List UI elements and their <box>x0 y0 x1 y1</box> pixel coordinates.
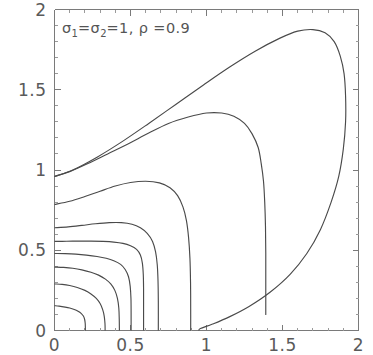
equals-2: = <box>107 20 120 36</box>
equals-3: = <box>153 20 166 36</box>
x-tick-label: 1 <box>201 335 212 355</box>
x-tick-label: 0.5 <box>116 335 145 355</box>
sigma-value: 1 <box>119 20 129 36</box>
parameter-annotation: σ1=σ2=1, ρ =0.9 <box>62 20 190 39</box>
x-tick-label: 0 <box>49 335 60 355</box>
y-tick-label: 1 <box>35 160 46 180</box>
sigma1-symbol: σ <box>62 20 72 36</box>
y-tick-label: 1.5 <box>18 80 47 100</box>
x-tick-label: 2 <box>353 335 364 355</box>
y-tick-label: 0 <box>35 321 46 341</box>
rho-value: 0.9 <box>166 20 190 36</box>
plot-canvas: 00.511.5200.511.52 <box>0 0 373 355</box>
sigma2-symbol: σ <box>91 20 101 36</box>
plot-background <box>0 0 373 355</box>
y-tick-label: 0.5 <box>18 240 47 260</box>
rho-symbol: ρ <box>139 20 149 36</box>
x-tick-label: 1.5 <box>268 335 297 355</box>
contour-plot-figure: 00.511.5200.511.52 σ1=σ2=1, ρ =0.9 <box>0 0 373 355</box>
y-tick-label: 2 <box>35 0 46 20</box>
annotation-comma: , <box>129 20 134 36</box>
equals-1: = <box>78 20 91 36</box>
